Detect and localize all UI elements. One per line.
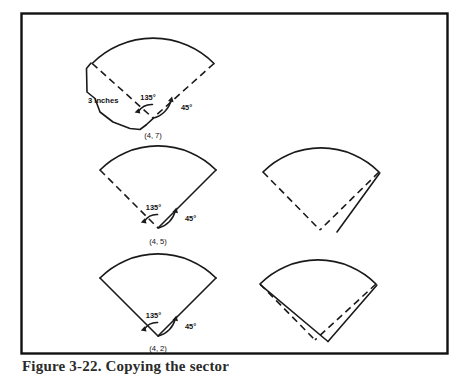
- sector-right-edge-dashed: [320, 172, 379, 230]
- band-apex-stub: [146, 118, 153, 125]
- label-angle-45: 45°: [185, 322, 196, 331]
- sector-left-edge-solid: [100, 278, 158, 336]
- panel-middle-right: [263, 148, 380, 232]
- angle-arc-45: [154, 100, 171, 118]
- copy-right-edge-solid: [328, 285, 377, 341]
- sector-arc: [100, 146, 216, 170]
- figure-caption: Figure 3-22. Copying the sector: [22, 358, 229, 375]
- panel-bottom-right: [260, 260, 377, 342]
- sector-arc: [92, 38, 214, 63]
- copy-edge-solid: [337, 173, 380, 232]
- sector-arc: [260, 260, 376, 284]
- sector-right-edge-dashed: [315, 284, 376, 340]
- copy-left-edge-solid: [261, 285, 328, 341]
- label-coord-bottom: (4, 2): [149, 344, 167, 353]
- figure-illustration: 135° 45° 3 inches (4, 7) 135° 45° (4, 5): [0, 0, 465, 376]
- figure-root: 135° 45° 3 inches (4, 7) 135° 45° (4, 5): [0, 0, 465, 376]
- label-coord-top: (4, 7): [144, 131, 162, 140]
- sector-arc: [263, 148, 379, 172]
- angle-arrow-45: [168, 97, 174, 103]
- sector-left-edge-dashed: [92, 64, 153, 119]
- label-angle-135: 135°: [146, 311, 161, 320]
- sector-arc: [100, 254, 216, 278]
- sector-left-edge-dashed: [100, 170, 158, 228]
- label-angle-45: 45°: [181, 103, 192, 112]
- label-coord-middle: (4, 5): [149, 237, 167, 246]
- panel-middle-left: 135° 45° (4, 5): [100, 146, 216, 246]
- figure-frame: [22, 14, 448, 354]
- label-dimension-3-inches: 3 inches: [88, 96, 118, 105]
- panel-bottom-left: 135° 45° (4, 2): [100, 254, 216, 353]
- sector-left-edge-dashed: [263, 172, 320, 230]
- label-angle-135: 135°: [140, 93, 155, 102]
- label-angle-45: 45°: [185, 214, 196, 223]
- label-angle-135: 135°: [146, 203, 161, 212]
- panel-top-left: 135° 45° 3 inches (4, 7): [87, 38, 215, 139]
